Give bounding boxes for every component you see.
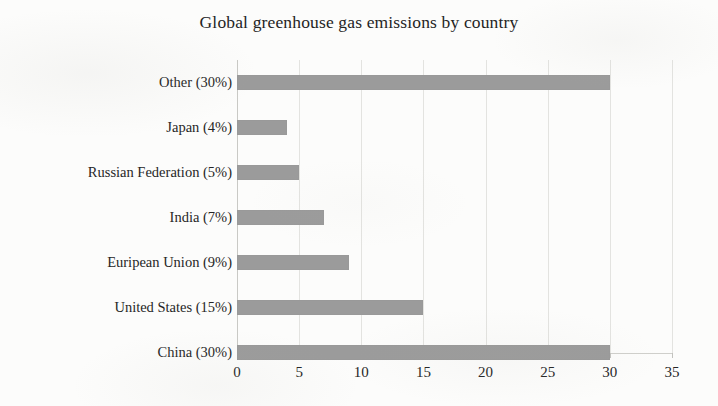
y-axis-category-labels: Other (30%)Japan (4%)Russian Federation …: [0, 60, 232, 353]
x-tick-label: 30: [590, 362, 630, 382]
x-tick-label: 5: [279, 362, 319, 382]
category-label: China (30%): [158, 343, 233, 361]
bar-row[interactable]: [237, 240, 672, 285]
category-label: Euripean Union (9%): [107, 253, 232, 271]
x-tick-label: 0: [217, 362, 257, 382]
gridline-35: [672, 60, 673, 353]
x-tick-label: 25: [528, 362, 568, 382]
bar-row[interactable]: [237, 150, 672, 195]
bar[interactable]: [237, 120, 287, 135]
bar[interactable]: [237, 210, 324, 225]
category-label: India (7%): [170, 208, 232, 226]
bar[interactable]: [237, 255, 349, 270]
chart-title: Global greenhouse gas emissions by count…: [0, 9, 718, 35]
category-label: Other (30%): [159, 73, 232, 91]
chart-figure: Global greenhouse gas emissions by count…: [0, 0, 718, 406]
bar-row[interactable]: [237, 285, 672, 330]
bar[interactable]: [237, 300, 423, 315]
x-tick-label: 20: [466, 362, 506, 382]
x-tick-label: 10: [341, 362, 381, 382]
bar[interactable]: [237, 165, 299, 180]
x-tick-label: 15: [403, 362, 443, 382]
x-tick-label: 35: [652, 362, 692, 382]
bar-row[interactable]: [237, 105, 672, 150]
bar-row[interactable]: [237, 195, 672, 240]
category-label: Russian Federation (5%): [88, 163, 232, 181]
bar[interactable]: [237, 345, 610, 360]
tickmark-35: [672, 353, 673, 358]
x-axis-tick-labels: 05101520253035: [0, 362, 718, 386]
category-label: United States (15%): [114, 298, 232, 316]
bar[interactable]: [237, 75, 610, 90]
bar-row[interactable]: [237, 60, 672, 105]
category-label: Japan (4%): [166, 118, 232, 136]
